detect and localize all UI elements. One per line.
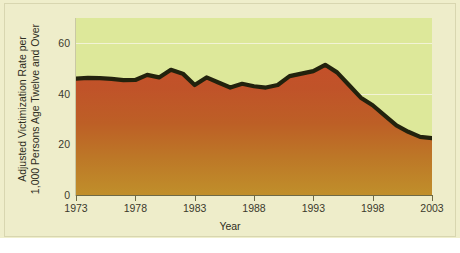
x-tick-label-2003: 2003 bbox=[410, 202, 454, 214]
area-series-svg bbox=[76, 18, 432, 195]
x-tick-1973 bbox=[76, 195, 77, 201]
x-tick-label-1983: 1983 bbox=[173, 202, 217, 214]
page-bottom-margin bbox=[0, 238, 460, 253]
y-axis-ticks: 0204060 bbox=[38, 0, 70, 253]
x-tick-1978 bbox=[135, 195, 136, 201]
x-tick-label-1973: 1973 bbox=[54, 202, 98, 214]
x-tick-label-1998: 1998 bbox=[351, 202, 395, 214]
y-axis-line bbox=[75, 18, 76, 196]
x-tick-1998 bbox=[373, 195, 374, 201]
y-axis-title: Adjusted Victimization Rate per 1,000 Pe… bbox=[16, 14, 42, 204]
x-tick-label-1988: 1988 bbox=[232, 202, 276, 214]
y-tick-label-40: 40 bbox=[40, 89, 70, 99]
y-tick-label-0: 0 bbox=[40, 190, 70, 200]
chart-figure: 0204060 Adjusted Victimization Rate per … bbox=[0, 0, 460, 253]
y-tick-label-20: 20 bbox=[40, 139, 70, 149]
x-tick-1983 bbox=[195, 195, 196, 201]
y-tick-label-60: 60 bbox=[40, 38, 70, 48]
x-axis-title: Year bbox=[0, 220, 460, 232]
x-tick-1988 bbox=[254, 195, 255, 201]
y-axis-title-line2: 1,000 Persons Age Twelve and Over bbox=[29, 14, 42, 204]
plot-area bbox=[76, 18, 432, 195]
y-axis-title-line1: Adjusted Victimization Rate per bbox=[16, 14, 29, 204]
x-tick-2003 bbox=[432, 195, 433, 201]
x-tick-1993 bbox=[313, 195, 314, 201]
x-tick-label-1993: 1993 bbox=[291, 202, 335, 214]
x-tick-label-1978: 1978 bbox=[113, 202, 157, 214]
